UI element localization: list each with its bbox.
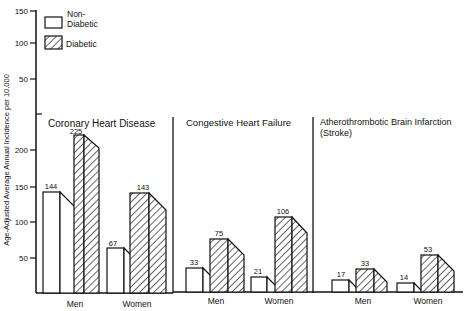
panel-chd: 144 225 67 143 Men Women — [43, 127, 166, 309]
panel-frames — [36, 117, 463, 293]
bar-chf-men-nondiabetic — [186, 268, 203, 292]
bar-abi-women-diabetic — [421, 255, 438, 292]
panel-abi: 17 33 14 53 Men Women — [332, 245, 454, 306]
legend: Non- Diabetic Diabetic — [45, 9, 98, 49]
panel-title-abi: Atherothrombotic Brain Infarction — [320, 117, 452, 127]
y-tick-label: 200 — [15, 146, 29, 155]
category-label-women: Women — [413, 296, 442, 306]
bar-abi-women-nondiabetic — [397, 283, 414, 292]
bar-chf-men-diabetic — [210, 239, 228, 292]
value-label: 225 — [70, 127, 83, 136]
legend-swatch-nondiabetic — [45, 17, 62, 28]
panel-title-chf: Congestive Heart Failure — [186, 117, 291, 128]
legend-label-nondiabetic: Diabetic — [67, 19, 98, 29]
y-tick-label: 150 — [15, 183, 29, 192]
bar-chd-women-diabetic — [130, 193, 149, 293]
bar-abi-men-diabetic — [356, 269, 374, 292]
y-tick-label: 150 — [15, 7, 29, 16]
bar-chd-women-nondiabetic — [107, 248, 124, 293]
category-label-men: Men — [208, 296, 225, 306]
bar-chd-men-diabetic — [74, 135, 84, 293]
legend-label-nondiabetic: Non- — [67, 9, 86, 19]
value-label: 53 — [424, 245, 432, 254]
category-label-men: Men — [67, 299, 84, 309]
value-label: 14 — [400, 273, 408, 282]
y-tick-label: 100 — [15, 39, 29, 48]
value-label: 21 — [254, 267, 262, 276]
value-label: 17 — [337, 270, 345, 279]
y-axis-label: Age-Adjusted Average Annual Incidence pe… — [2, 74, 11, 246]
y-axis: 150 100 50 200 150 100 50 Age-Adjusted A… — [2, 7, 42, 293]
value-label: 33 — [190, 258, 198, 267]
panel-title-chd: Coronary Heart Disease — [48, 118, 156, 129]
bar-chf-women-nondiabetic — [251, 277, 267, 292]
value-label: 67 — [109, 239, 117, 248]
value-label: 75 — [215, 229, 223, 238]
legend-label-diabetic: Diabetic — [66, 39, 97, 49]
bar-chd-men-nondiabetic — [43, 192, 60, 293]
y-tick-label: 50 — [19, 254, 28, 263]
category-label-women: Women — [264, 296, 293, 306]
panel-subtitle-abi: (Stroke) — [320, 128, 352, 138]
y-tick-label: 50 — [19, 75, 28, 84]
chart: 150 100 50 200 150 100 50 Age-Adjusted A… — [0, 0, 472, 311]
value-label: 143 — [137, 183, 150, 192]
value-label: 106 — [277, 207, 290, 216]
value-label: 144 — [45, 182, 58, 191]
bar-chf-women-diabetic — [275, 217, 292, 292]
legend-swatch-diabetic — [45, 36, 62, 49]
panel-chf: 33 75 21 106 Men Women — [186, 207, 307, 306]
category-label-men: Men — [355, 296, 372, 306]
y-tick-label: 100 — [15, 218, 29, 227]
value-label: 33 — [361, 259, 369, 268]
category-label-women: Women — [122, 299, 151, 309]
bar-abi-men-nondiabetic — [332, 280, 349, 292]
